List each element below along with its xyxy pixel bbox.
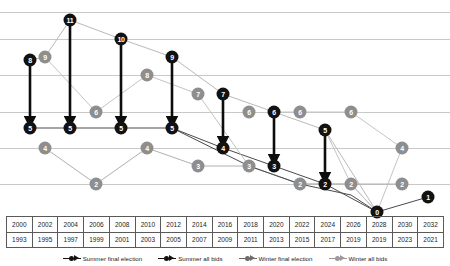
- data-point-m10: 9: [166, 51, 179, 64]
- axis-column-2022: 20222015: [290, 217, 316, 247]
- winter-year-label: 2011: [238, 233, 263, 248]
- summer-year-label: 2006: [84, 217, 109, 233]
- axis-column-2020: 20202013: [264, 217, 290, 247]
- data-point-m12: 7: [192, 88, 205, 101]
- data-point-m26: 2: [90, 178, 103, 191]
- summer-year-label: 2000: [7, 217, 32, 233]
- legend-item-0[interactable]: Summer final election: [63, 254, 143, 262]
- data-point-markers: 8591156105895774663652604142433222: [0, 0, 450, 214]
- data-point-m20: 2: [319, 178, 332, 191]
- winter-year-label: 2017: [315, 233, 340, 248]
- summer-year-label: 2026: [341, 217, 366, 233]
- axis-column-2006: 20061999: [84, 217, 110, 247]
- data-point-m11: 5: [166, 122, 179, 135]
- axis-column-2004: 20041997: [58, 217, 84, 247]
- data-point-m15: 6: [243, 106, 256, 119]
- axis-column-2028: 20282019: [367, 217, 393, 247]
- axis-column-2014: 20142007: [187, 217, 213, 247]
- axis-column-2024: 20242017: [315, 217, 341, 247]
- axis-column-2032: 20322021: [418, 217, 443, 247]
- summer-year-label: 2030: [393, 217, 418, 233]
- summer-year-label: 2012: [161, 217, 186, 233]
- axis-column-2002: 20021995: [33, 217, 59, 247]
- data-point-m17: 3: [268, 160, 281, 173]
- data-point-m19: 5: [319, 124, 332, 137]
- data-point-m7: 10: [115, 33, 128, 46]
- winter-year-label: 2007: [187, 233, 212, 248]
- data-point-m1: 8: [24, 54, 37, 67]
- winter-year-label: 2023: [393, 233, 418, 248]
- winter-year-label: 2019: [367, 233, 392, 248]
- summer-year-label: 2028: [367, 217, 392, 233]
- winter-year-label: 1993: [7, 233, 32, 248]
- legend-marker-icon: [158, 254, 176, 262]
- legend-label: Winter all bids: [349, 255, 388, 262]
- legend-marker-icon: [329, 254, 347, 262]
- summer-year-label: 2022: [290, 217, 315, 233]
- data-point-m16: 6: [268, 106, 281, 119]
- axis-column-2030: 20302023: [393, 217, 419, 247]
- summer-year-label: 2024: [315, 217, 340, 233]
- summer-year-label: 2032: [418, 217, 443, 233]
- plot-area: 8591156105895774663652604142433222: [0, 0, 450, 214]
- summer-year-label: 2018: [238, 217, 263, 233]
- data-point-m13: 7: [217, 88, 230, 101]
- summer-year-label: 2004: [58, 217, 83, 233]
- axis-column-2018: 20182011: [238, 217, 264, 247]
- winter-year-label: 2015: [290, 233, 315, 248]
- winter-year-label: 2009: [213, 233, 238, 248]
- legend-item-3[interactable]: Winter all bids: [329, 254, 388, 262]
- bid-count-line-chart: 8591156105895774663652604142433222 20001…: [0, 0, 450, 266]
- legend-label: Summer final election: [83, 255, 143, 262]
- data-point-m30: 2: [294, 178, 307, 191]
- legend-label: Winter final election: [259, 255, 313, 262]
- data-point-m32: 2: [396, 178, 409, 191]
- legend-item-2[interactable]: Winter final election: [239, 254, 313, 262]
- data-point-m24: 1: [422, 191, 435, 204]
- legend-marker-icon: [63, 254, 81, 262]
- data-point-m23: 4: [396, 142, 409, 155]
- winter-year-label: 2019: [341, 233, 366, 248]
- data-point-m28: 3: [192, 160, 205, 173]
- data-point-m14: 4: [217, 142, 230, 155]
- data-point-m5: 5: [64, 122, 77, 135]
- summer-year-label: 2016: [213, 217, 238, 233]
- summer-year-label: 2020: [264, 217, 289, 233]
- data-point-m6: 6: [90, 106, 103, 119]
- x-axis-year-table: 2000199320021995200419972006199920082001…: [6, 216, 444, 248]
- data-point-m25: 4: [39, 142, 52, 155]
- winter-year-label: 1995: [33, 233, 58, 248]
- chart-legend: Summer final electionSummer all bidsWint…: [0, 250, 450, 266]
- axis-column-2012: 20122005: [161, 217, 187, 247]
- winter-year-label: 2021: [418, 233, 443, 248]
- legend-item-1[interactable]: Summer all bids: [158, 254, 222, 262]
- data-point-m27: 4: [141, 142, 154, 155]
- axis-column-2026: 20262019: [341, 217, 367, 247]
- data-point-m4: 11: [64, 14, 77, 27]
- summer-year-label: 2002: [33, 217, 58, 233]
- summer-year-label: 2010: [136, 217, 161, 233]
- summer-year-label: 2014: [187, 217, 212, 233]
- data-point-m8: 5: [115, 122, 128, 135]
- legend-label: Summer all bids: [178, 255, 222, 262]
- data-point-m9: 8: [141, 69, 154, 82]
- summer-year-label: 2008: [110, 217, 135, 233]
- winter-year-label: 2005: [161, 233, 186, 248]
- winter-year-label: 2013: [264, 233, 289, 248]
- axis-column-2016: 20162009: [213, 217, 239, 247]
- winter-year-label: 1999: [84, 233, 109, 248]
- data-point-m18: 6: [294, 106, 307, 119]
- data-point-m31: 2: [345, 178, 358, 191]
- data-point-m29: 3: [243, 160, 256, 173]
- winter-year-label: 2001: [110, 233, 135, 248]
- axis-column-2008: 20082001: [110, 217, 136, 247]
- legend-marker-icon: [239, 254, 257, 262]
- axis-column-2010: 20102003: [136, 217, 162, 247]
- data-point-m3: 9: [39, 51, 52, 64]
- data-point-m2: 5: [24, 122, 37, 135]
- winter-year-label: 2003: [136, 233, 161, 248]
- axis-column-2000: 20001993: [7, 217, 33, 247]
- winter-year-label: 1997: [58, 233, 83, 248]
- data-point-m21: 6: [345, 106, 358, 119]
